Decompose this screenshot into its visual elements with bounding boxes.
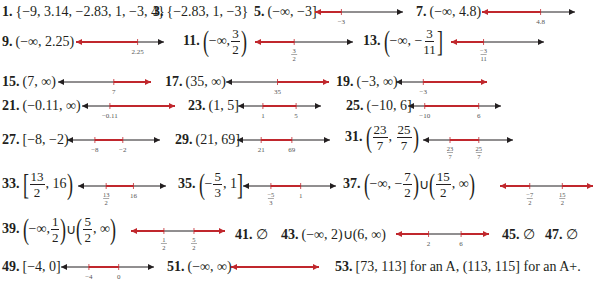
open-paren: ( [76,214,82,244]
fraction: 53 [213,170,222,199]
answer-number: 37. [343,176,361,192]
left-arrow-icon [396,231,402,237]
number-line-svg: −106 [407,100,502,120]
number-line-svg: 2169 [236,134,331,154]
close-paren: ) [110,214,116,244]
fraction: 311 [423,27,436,56]
open-bracket: [ [23,169,29,199]
left-arrow-icon [243,183,249,189]
answer-35: 35. ( − 53 , 1 ] [178,169,243,199]
numerator: 5 [83,215,92,230]
tick-label: 1 [261,112,265,120]
number-line-svg: −0.11 [81,100,176,120]
number-line-11: 32 [254,36,354,60]
number-line-svg: −40 [60,261,155,281]
left-arrow-icon [58,79,64,85]
answer-text: (7, ∞) [23,74,56,90]
denominator: 7 [377,138,384,152]
left-arrow-icon [315,9,321,15]
answer-prefix: −∞, [209,33,230,49]
right-arrow-icon [313,264,319,270]
close-paren: ) [60,214,66,244]
tick-label-numerator: 3 [293,47,296,54]
answer-suffix: 16 [53,176,67,192]
number-line-svg: −72152 [499,180,594,204]
left-arrow-icon [231,264,237,270]
answer-number: 27. [2,132,20,148]
comma: , [93,221,100,237]
number-line-9: 2.25 [75,36,165,56]
tick-label-denominator: 2 [528,199,531,206]
numerator: 23 [373,123,388,138]
right-arrow-icon [154,137,160,143]
number-line-25: −106 [407,100,502,120]
number-line-svg [230,261,320,281]
answer-text: {−9, 3.14, −2.83, 1, −3, 4} [16,4,165,20]
answer-number: 39. [2,221,20,237]
denominator: 2 [404,185,411,199]
answer-13: 13. ( −∞, − 311 ] [363,26,443,56]
answer-text: (−10, 6] [367,98,412,114]
number-line-51 [230,261,320,281]
numerator: 3 [425,27,434,42]
open-paren: ( [366,122,372,152]
number-line-35: −531 [242,180,337,204]
fraction: 32 [231,27,240,56]
tick-label: 2 [427,240,431,248]
tick-label: 7 [112,88,116,96]
tick-label: 35 [274,88,282,96]
denominator: 2 [52,230,59,244]
number-line-7: 4.8 [481,6,576,26]
tick-label: 5 [294,112,298,120]
right-arrow-icon [347,39,353,45]
tick-label-numerator: −5 [267,191,274,198]
answer-text: (−∞, 4.8) [430,4,482,20]
left-arrow-icon [255,39,261,45]
tick-label-denominator: 11 [480,55,486,62]
number-line-svg: −311 [450,36,545,60]
number-line-svg: 2.25 [75,36,165,56]
answer-1: 1. {−9, 3.14, −2.83, 1, −3, 4} [2,4,165,20]
answer-47: 47. ∅ [545,226,578,243]
answer-prefix: −∞, − [370,176,403,192]
answer-53: 53. [73, 113] for an A, (113, 115] for a… [335,259,581,275]
answer-25: 25. (−10, 6] [346,98,412,114]
denominator: 2 [84,230,91,244]
answer-number: 11. [183,33,200,49]
answer-9: 9. (−∞, 2.25) [2,34,74,50]
tick-label-numerator: −3 [480,47,487,54]
right-arrow-icon [148,264,154,270]
answer-number: 53. [335,259,353,275]
tick-label: −10 [419,112,430,120]
fraction: 72 [403,170,412,199]
fraction: 12 [51,215,60,244]
denominator: 11 [423,42,436,56]
tick-label-numerator: −7 [526,191,534,198]
number-line-svg: −531 [242,180,337,204]
left-arrow-icon [423,137,429,143]
number-line-svg: 26 [395,228,490,248]
right-arrow-icon [330,183,336,189]
answer-text: (−∞, 2)∪(6, ∞) [302,226,387,243]
left-arrow-icon [82,103,88,109]
tick-label: 2.25 [131,48,144,56]
left-arrow-icon [500,183,506,189]
tick-label: −4 [85,273,93,281]
answer-number: 31. [345,129,363,145]
answer-23: 23. (1, 5] [188,98,239,114]
numerator: 15 [436,170,451,185]
number-line-svg: 7 [57,76,152,96]
number-line-svg: 237257 [422,134,514,158]
answer-prefix: −∞, − [390,33,423,49]
answer-number: 13. [363,33,381,49]
answer-31: 31. ( 237 , 257 ) [345,122,419,152]
fraction: 237 [373,123,388,152]
comma: , [389,129,396,145]
number-line-svg: 35 [225,76,330,96]
answer-text: (21, 69] [196,132,240,148]
tick-label: −2 [119,146,127,154]
left-arrow-icon [131,228,137,234]
denominator: 3 [214,185,221,199]
answer-3: 3. {−2.83, 1, −3} [153,4,248,20]
tick-label-numerator: 5 [192,236,195,243]
